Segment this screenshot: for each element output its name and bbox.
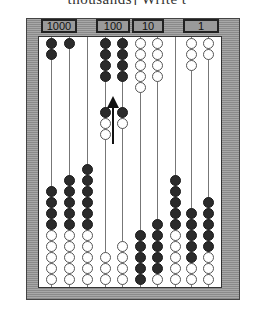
bead-bottom-white[interactable] (64, 263, 75, 274)
bead-top-white[interactable] (135, 71, 146, 82)
bead-bottom-black[interactable] (186, 230, 197, 241)
bead-bottom-white[interactable] (170, 241, 181, 252)
bead-bottom-white[interactable] (46, 252, 57, 263)
bead-top-white[interactable] (152, 60, 163, 71)
bead-top-white[interactable] (135, 60, 146, 71)
bead-bottom-black[interactable] (186, 219, 197, 230)
bead-bottom-white[interactable] (117, 252, 128, 263)
bead-bottom-black[interactable] (46, 186, 57, 197)
bead-top-black[interactable] (117, 71, 128, 82)
bead-top-black[interactable] (64, 38, 75, 49)
bead-bottom-black[interactable] (170, 208, 181, 219)
bead-top-black[interactable] (100, 71, 111, 82)
bead-top-white[interactable] (186, 38, 197, 49)
bead-bottom-black[interactable] (203, 241, 214, 252)
bead-bottom-white[interactable] (82, 230, 93, 241)
bead-bottom-white[interactable] (170, 263, 181, 274)
bead-bottom-black[interactable] (152, 241, 163, 252)
bead-bottom-white[interactable] (46, 263, 57, 274)
bead-bottom-black[interactable] (64, 208, 75, 219)
bead-top-black[interactable] (117, 49, 128, 60)
bead-top-black[interactable] (100, 38, 111, 49)
bead-top-black[interactable] (100, 60, 111, 71)
bead-bottom-white[interactable] (82, 241, 93, 252)
bead-bottom-white[interactable] (203, 263, 214, 274)
bead-bottom-black[interactable] (46, 197, 57, 208)
bead-bottom-black[interactable] (170, 197, 181, 208)
bead-bottom-black[interactable] (186, 252, 197, 263)
bead-bottom-black[interactable] (82, 175, 93, 186)
bead-bottom-black[interactable] (152, 230, 163, 241)
bead-bottom-white[interactable] (170, 252, 181, 263)
bead-bottom-black[interactable] (152, 252, 163, 263)
bead-bottom-black[interactable] (170, 219, 181, 230)
bead-bottom-black[interactable] (203, 197, 214, 208)
bead-mid-black[interactable] (100, 107, 111, 118)
bead-top-black[interactable] (100, 49, 111, 60)
bead-top-white[interactable] (135, 38, 146, 49)
bead-bottom-black[interactable] (64, 175, 75, 186)
bead-bottom-black[interactable] (82, 219, 93, 230)
bead-bottom-white[interactable] (64, 252, 75, 263)
bead-bottom-black[interactable] (82, 197, 93, 208)
bead-bottom-black[interactable] (170, 186, 181, 197)
bead-bottom-white[interactable] (203, 252, 214, 263)
bead-bottom-black[interactable] (135, 263, 146, 274)
bead-top-black[interactable] (117, 38, 128, 49)
bead-bottom-black[interactable] (135, 252, 146, 263)
bead-bottom-white[interactable] (64, 241, 75, 252)
bead-bottom-white[interactable] (186, 274, 197, 285)
bead-bottom-black[interactable] (203, 219, 214, 230)
bead-top-white[interactable] (135, 82, 146, 93)
bead-top-white[interactable] (186, 60, 197, 71)
bead-bottom-white[interactable] (100, 263, 111, 274)
bead-top-black[interactable] (117, 60, 128, 71)
bead-bottom-white[interactable] (152, 274, 163, 285)
bead-bottom-black[interactable] (46, 208, 57, 219)
bead-mid-white[interactable] (117, 118, 128, 129)
bead-bottom-white[interactable] (170, 274, 181, 285)
bead-bottom-black[interactable] (152, 219, 163, 230)
bead-bottom-white[interactable] (117, 274, 128, 285)
bead-bottom-white[interactable] (46, 241, 57, 252)
bead-bottom-black[interactable] (46, 219, 57, 230)
bead-bottom-black[interactable] (64, 219, 75, 230)
bead-top-white[interactable] (203, 49, 214, 60)
bead-mid-white[interactable] (100, 129, 111, 140)
bead-bottom-black[interactable] (186, 208, 197, 219)
bead-bottom-white[interactable] (82, 252, 93, 263)
bead-mid-white[interactable] (100, 118, 111, 129)
bead-bottom-white[interactable] (82, 274, 93, 285)
bead-bottom-black[interactable] (135, 274, 146, 285)
bead-bottom-black[interactable] (203, 230, 214, 241)
bead-bottom-black[interactable] (186, 241, 197, 252)
bead-bottom-black[interactable] (64, 186, 75, 197)
bead-top-white[interactable] (203, 38, 214, 49)
bead-bottom-black[interactable] (203, 208, 214, 219)
bead-bottom-black[interactable] (170, 175, 181, 186)
bead-mid-black[interactable] (117, 107, 128, 118)
bead-top-black[interactable] (46, 38, 57, 49)
bead-top-white[interactable] (152, 38, 163, 49)
bead-bottom-black[interactable] (82, 186, 93, 197)
bead-bottom-white[interactable] (64, 274, 75, 285)
bead-bottom-white[interactable] (203, 274, 214, 285)
bead-bottom-black[interactable] (135, 230, 146, 241)
bead-top-white[interactable] (135, 49, 146, 60)
bead-bottom-white[interactable] (100, 252, 111, 263)
bead-bottom-white[interactable] (100, 274, 111, 285)
bead-bottom-black[interactable] (64, 197, 75, 208)
bead-bottom-black[interactable] (135, 241, 146, 252)
bead-bottom-white[interactable] (117, 241, 128, 252)
bead-bottom-white[interactable] (117, 263, 128, 274)
bead-bottom-white[interactable] (170, 230, 181, 241)
bead-bottom-black[interactable] (82, 164, 93, 175)
bead-bottom-white[interactable] (186, 263, 197, 274)
bead-bottom-white[interactable] (46, 230, 57, 241)
bead-bottom-black[interactable] (82, 208, 93, 219)
bead-top-white[interactable] (186, 49, 197, 60)
bead-top-white[interactable] (152, 71, 163, 82)
bead-bottom-white[interactable] (46, 274, 57, 285)
bead-top-black[interactable] (46, 49, 57, 60)
bead-bottom-white[interactable] (64, 230, 75, 241)
